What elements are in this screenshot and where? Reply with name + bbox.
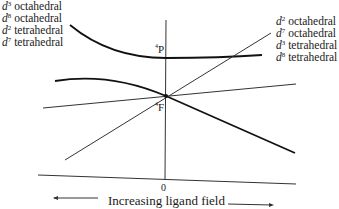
term-4p-label: 4P (155, 43, 164, 55)
f-term-line-c (65, 33, 271, 160)
right-label-3: d3 tetrahedral (276, 40, 337, 51)
f-term-curve-a (55, 79, 295, 153)
zero-axis-line (165, 20, 166, 180)
right-arrow-icon (269, 203, 274, 207)
right-label-2: d7 octahedral (276, 28, 336, 39)
baseline (38, 175, 296, 184)
axis-label: Increasing ligand field (108, 193, 225, 209)
right-label-4: d8 tetrahedral (276, 52, 337, 63)
left-label-1: d3 octahedral (2, 1, 62, 12)
right-arrow-line (228, 204, 272, 205)
axis-zero-tick: 0 (161, 182, 166, 193)
left-arrow-icon (53, 196, 58, 200)
term-4f-label: 4F (155, 101, 164, 113)
left-label-4: d7 tetrahedral (2, 37, 63, 48)
left-label-3: d2 tetrahedral (2, 25, 63, 36)
left-label-2: d8 octahedral (2, 13, 62, 24)
f-term-point (164, 94, 168, 98)
right-label-1: d2 octahedral (276, 16, 336, 27)
